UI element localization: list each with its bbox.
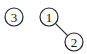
node-label: 3 bbox=[11, 10, 18, 25]
node-label: 2 bbox=[71, 35, 78, 50]
edge-1-2 bbox=[55, 23, 67, 35]
node-3: 3 bbox=[5, 8, 23, 26]
graph-diagram: 3 1 2 bbox=[0, 0, 87, 54]
node-1: 1 bbox=[40, 8, 58, 26]
node-label: 1 bbox=[46, 10, 53, 25]
node-2: 2 bbox=[65, 33, 83, 51]
